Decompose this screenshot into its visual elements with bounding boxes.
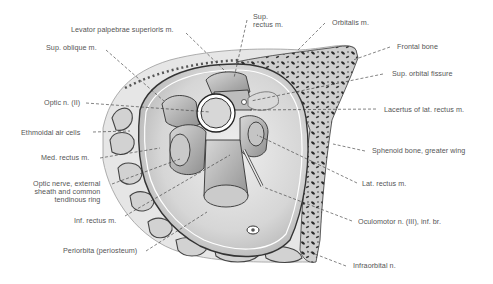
label-levator-palpebrae: Levator palpebrae superioris m. (71, 26, 174, 34)
label-lacertus: Lacertus of lat. rectus m. (384, 106, 464, 114)
label-optic-nerve-sheath: Optic nerve, external sheath and common … (33, 180, 100, 204)
label-orbitalis: Orbitalis m. (332, 19, 369, 27)
label-lat-rectus: Lat. rectus m. (362, 180, 406, 188)
label-infraorbital: Infraorbital n. (353, 262, 396, 270)
label-sup-rectus: Sup. rectus m. (253, 13, 283, 29)
label-inf-rectus: Inf. rectus m. (74, 217, 116, 225)
label-sup-orbital-fissure: Sup. orbital fissure (392, 70, 453, 78)
label-oculomotor: Oculomotor n. (III), inf. br. (358, 218, 441, 226)
orbit-anatomy-figure: Levator palpebrae superioris m. Sup. rec… (0, 0, 493, 284)
sup-oblique-muscle (162, 96, 200, 128)
label-sup-oblique: Sup. oblique m. (46, 44, 97, 52)
infraorbital-canal (247, 226, 259, 234)
label-frontal-bone: Frontal bone (397, 43, 438, 51)
label-ethmoidal-air-cells: Ethmoidal air cells (21, 129, 80, 137)
label-optic-n: Optic n. (II) (44, 99, 80, 107)
label-sphenoid-bone: Sphenoid bone, greater wing (372, 147, 465, 155)
label-periorbita: Periorbita (periosteum) (63, 247, 137, 255)
label-med-rectus: Med. rectus m. (41, 154, 89, 162)
